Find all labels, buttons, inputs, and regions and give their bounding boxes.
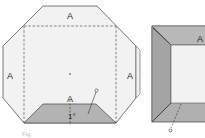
octagon-net: A A A A 1° Fig.	[3, 6, 136, 137]
label-top-face: A	[67, 11, 73, 21]
frame-inner-face	[171, 45, 205, 103]
side-panel-partial	[136, 46, 140, 98]
caption: Fig.	[22, 131, 32, 137]
pointer-circle	[95, 89, 98, 92]
label-frame-face: A	[197, 34, 203, 44]
bevel-frame: A	[152, 26, 205, 132]
side-panel-edge	[136, 46, 140, 98]
label-bottom-face: A	[67, 94, 73, 104]
center-dot	[69, 73, 71, 75]
label-angle: 1°	[68, 112, 76, 121]
frame-pointer-circle	[169, 129, 172, 132]
diagram-canvas: A A A A 1° Fig. A	[0, 0, 205, 138]
label-right-face: A	[127, 71, 133, 81]
label-left-face: A	[7, 71, 13, 81]
